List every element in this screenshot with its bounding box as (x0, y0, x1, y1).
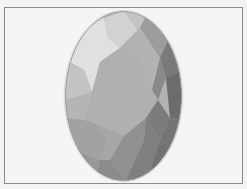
gem-facets (60, 8, 190, 186)
gem-illustration (0, 0, 247, 189)
